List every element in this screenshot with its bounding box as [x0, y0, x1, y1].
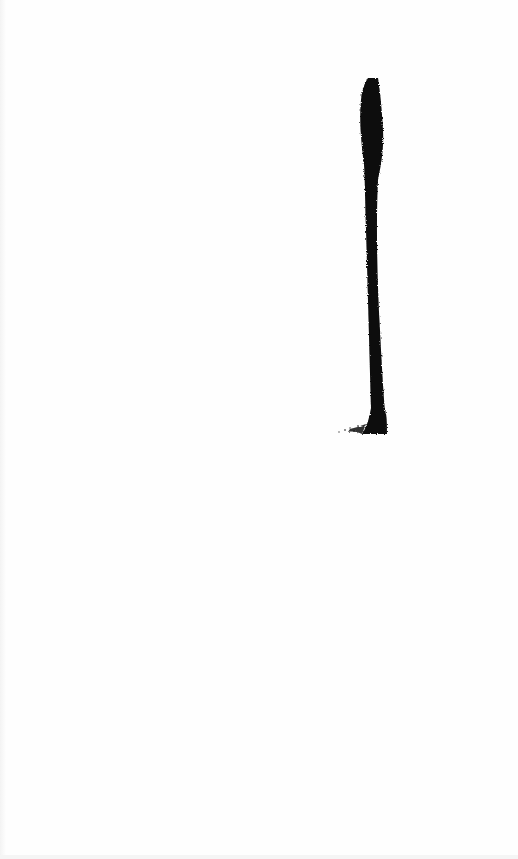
paper-background — [0, 0, 518, 859]
brush-stroke — [0, 0, 518, 859]
